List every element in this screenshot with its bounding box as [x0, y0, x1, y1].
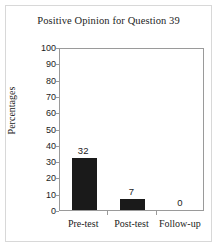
y-axis-tick-label: 100 [30, 43, 56, 53]
y-axis-title: Percentages [6, 76, 17, 146]
y-axis-tick-label: 90 [30, 59, 56, 69]
y-axis-tick-mark [56, 162, 59, 163]
y-axis-tick-label: 70 [30, 92, 56, 102]
y-axis-tick-label: 10 [30, 190, 56, 200]
y-axis-tick-label: 20 [30, 173, 56, 183]
bar-value-label: 32 [63, 145, 103, 156]
y-axis-tick-label: 50 [30, 125, 56, 135]
y-axis-tick-mark [56, 113, 59, 114]
x-axis-tick-mark [156, 211, 157, 215]
x-axis-tick-mark [107, 211, 108, 215]
chart-figure: Positive Opinion for Question 39 Percent… [0, 0, 219, 249]
y-axis-tick-label: 30 [30, 157, 56, 167]
y-axis-tick-mark [56, 146, 59, 147]
y-axis-tick-mark [56, 64, 59, 65]
chart-title: Positive Opinion for Question 39 [5, 15, 212, 26]
y-axis-tick-label: 60 [30, 108, 56, 118]
x-axis-tick-label: Follow-up [145, 218, 215, 229]
bar[interactable] [120, 199, 145, 210]
y-axis-tick-labels: 1009080706050403020100 [30, 43, 56, 216]
y-axis-tick-mark [56, 195, 59, 196]
y-axis-tick-mark [56, 48, 59, 49]
bar[interactable] [72, 158, 97, 210]
bar-value-label: 7 [112, 186, 152, 197]
y-axis-tick-label: 0 [30, 206, 56, 216]
bar-value-label: 0 [160, 197, 200, 208]
y-axis-tick-mark [56, 81, 59, 82]
y-axis-tick-mark [56, 178, 59, 179]
y-axis-tick-label: 40 [30, 141, 56, 151]
y-axis-tick-mark [56, 130, 59, 131]
y-axis-tick-label: 80 [30, 76, 56, 86]
y-axis-tick-mark [56, 211, 59, 212]
y-axis-tick-mark [56, 97, 59, 98]
